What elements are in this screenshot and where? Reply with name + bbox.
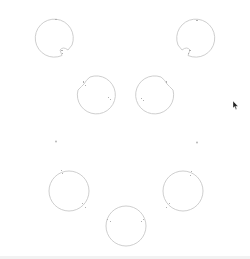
tick-mark xyxy=(143,219,144,220)
dot-right xyxy=(196,142,198,144)
tick-mark xyxy=(143,100,144,101)
circle-bottom-left xyxy=(49,171,89,211)
tick-mark xyxy=(166,207,167,208)
tick-mark xyxy=(83,81,84,83)
tick-mark xyxy=(61,50,63,51)
circle-bottom-right xyxy=(163,171,203,211)
tick-mark xyxy=(196,20,198,21)
diagram-canvas xyxy=(0,0,250,259)
tick-mark xyxy=(85,207,86,208)
tick-mark xyxy=(110,221,111,222)
tick-mark xyxy=(82,203,83,204)
tick-mark xyxy=(141,221,142,222)
tick-mark xyxy=(189,50,191,51)
circle-top-right xyxy=(177,19,215,57)
tick-mark xyxy=(141,98,142,99)
tick-mark xyxy=(169,203,170,204)
circle-bottom-center xyxy=(106,206,146,246)
tick-mark xyxy=(108,97,109,98)
tick-mark xyxy=(190,175,191,176)
tick-mark xyxy=(110,99,111,100)
tick-mark xyxy=(107,219,108,220)
tick-mark xyxy=(62,173,63,174)
circle-mid-right xyxy=(136,76,174,114)
tick-mark xyxy=(166,81,167,83)
dot-left xyxy=(55,141,57,143)
tick-mark xyxy=(62,53,63,54)
mouse-cursor-icon xyxy=(233,101,239,110)
tick-mark xyxy=(188,53,189,54)
tick-mark xyxy=(61,170,62,171)
tick-mark xyxy=(55,19,57,20)
diagram-drawing xyxy=(0,0,250,259)
tick-mark xyxy=(191,171,192,172)
tick-mark xyxy=(85,85,86,86)
circle-top-left xyxy=(35,19,73,57)
